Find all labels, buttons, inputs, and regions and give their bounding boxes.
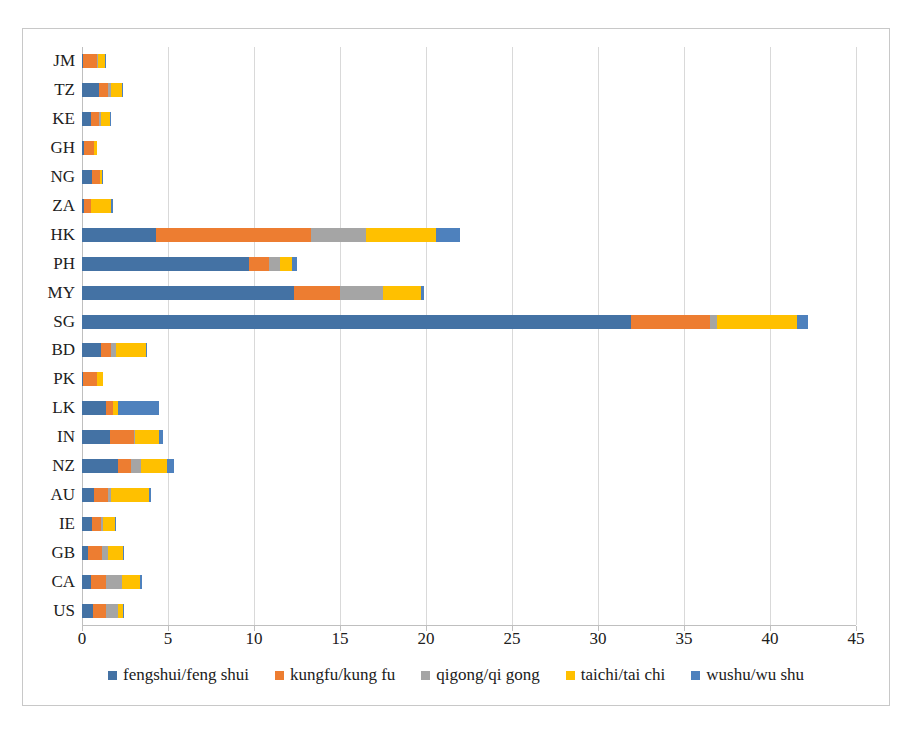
bar-segment[interactable]: [122, 83, 124, 97]
stacked-bar[interactable]: [82, 199, 113, 213]
bar-segment[interactable]: [292, 257, 297, 271]
bar-segment[interactable]: [93, 604, 106, 618]
stacked-bar[interactable]: [82, 372, 103, 386]
bar-row[interactable]: [82, 365, 856, 393]
stacked-bar[interactable]: [82, 459, 174, 473]
stacked-bar[interactable]: [82, 141, 97, 155]
bar-segment[interactable]: [110, 430, 134, 444]
bar-segment[interactable]: [149, 488, 151, 502]
bar-segment[interactable]: [82, 459, 118, 473]
bar-segment[interactable]: [141, 459, 167, 473]
bar-segment[interactable]: [97, 372, 104, 386]
bar-row[interactable]: [82, 250, 856, 278]
legend-item[interactable]: fengshui/feng shui: [108, 665, 249, 685]
bar-row[interactable]: [82, 279, 856, 307]
bar-segment[interactable]: [82, 83, 99, 97]
stacked-bar[interactable]: [82, 286, 424, 300]
stacked-bar[interactable]: [82, 604, 124, 618]
stacked-bar[interactable]: [82, 315, 808, 329]
bar-segment[interactable]: [111, 199, 113, 213]
bar-segment[interactable]: [311, 228, 366, 242]
bar-segment[interactable]: [94, 488, 108, 502]
stacked-bar[interactable]: [82, 401, 159, 415]
bar-segment[interactable]: [82, 315, 631, 329]
bar-segment[interactable]: [717, 315, 798, 329]
bar-row[interactable]: [82, 568, 856, 596]
bar-segment[interactable]: [294, 286, 340, 300]
bar-segment[interactable]: [88, 546, 102, 560]
bar-segment[interactable]: [159, 430, 162, 444]
bar-segment[interactable]: [105, 54, 106, 68]
bar-segment[interactable]: [118, 401, 159, 415]
bar-segment[interactable]: [84, 199, 91, 213]
legend-item[interactable]: wushu/wu shu: [691, 665, 804, 685]
bar-segment[interactable]: [83, 372, 97, 386]
bar-segment[interactable]: [106, 604, 118, 618]
bar-segment[interactable]: [340, 286, 383, 300]
bar-row[interactable]: [82, 47, 856, 75]
bar-segment[interactable]: [131, 459, 141, 473]
stacked-bar[interactable]: [82, 517, 116, 531]
bar-row[interactable]: [82, 76, 856, 104]
bar-segment[interactable]: [82, 112, 91, 126]
bar-row[interactable]: [82, 510, 856, 538]
legend-item[interactable]: taichi/tai chi: [566, 665, 666, 685]
bar-segment[interactable]: [710, 315, 717, 329]
bar-segment[interactable]: [140, 575, 142, 589]
bar-row[interactable]: [82, 336, 856, 364]
legend-item[interactable]: qigong/qi gong: [421, 665, 539, 685]
bar-row[interactable]: [82, 134, 856, 162]
stacked-bar[interactable]: [82, 546, 124, 560]
bar-row[interactable]: [82, 597, 856, 625]
bar-segment[interactable]: [797, 315, 807, 329]
bar-segment[interactable]: [436, 228, 460, 242]
bar-segment[interactable]: [82, 401, 106, 415]
bar-segment[interactable]: [103, 517, 115, 531]
bar-segment[interactable]: [167, 459, 174, 473]
bar-segment[interactable]: [82, 228, 156, 242]
stacked-bar[interactable]: [82, 575, 142, 589]
bar-row[interactable]: [82, 105, 856, 133]
bar-segment[interactable]: [111, 488, 149, 502]
bar-row[interactable]: [82, 308, 856, 336]
bar-segment[interactable]: [249, 257, 270, 271]
bar-segment[interactable]: [135, 430, 159, 444]
bar-segment[interactable]: [631, 315, 710, 329]
bar-segment[interactable]: [82, 430, 110, 444]
bar-row[interactable]: [82, 452, 856, 480]
bar-segment[interactable]: [82, 604, 93, 618]
bar-segment[interactable]: [115, 517, 117, 531]
bar-segment[interactable]: [82, 343, 101, 357]
bar-segment[interactable]: [92, 517, 101, 531]
bar-segment[interactable]: [146, 343, 148, 357]
stacked-bar[interactable]: [82, 488, 151, 502]
bar-segment[interactable]: [91, 112, 100, 126]
bar-segment[interactable]: [383, 286, 421, 300]
bar-segment[interactable]: [82, 170, 92, 184]
bar-segment[interactable]: [82, 488, 94, 502]
bar-segment[interactable]: [92, 170, 100, 184]
bar-row[interactable]: [82, 539, 856, 567]
bar-row[interactable]: [82, 481, 856, 509]
stacked-bar[interactable]: [82, 112, 111, 126]
bar-segment[interactable]: [106, 575, 121, 589]
bar-segment[interactable]: [99, 83, 108, 97]
bar-segment[interactable]: [110, 112, 112, 126]
bar-segment[interactable]: [98, 54, 105, 68]
bar-segment[interactable]: [82, 257, 249, 271]
bar-segment[interactable]: [101, 112, 110, 126]
bar-segment[interactable]: [82, 575, 91, 589]
bar-segment[interactable]: [116, 343, 145, 357]
bar-segment[interactable]: [421, 286, 424, 300]
bar-segment[interactable]: [366, 228, 437, 242]
bar-segment[interactable]: [91, 199, 112, 213]
bar-row[interactable]: [82, 192, 856, 220]
bar-segment[interactable]: [123, 604, 124, 618]
bar-segment[interactable]: [108, 546, 123, 560]
bar-row[interactable]: [82, 394, 856, 422]
stacked-bar[interactable]: [82, 54, 106, 68]
bar-segment[interactable]: [156, 228, 311, 242]
bar-segment[interactable]: [280, 257, 292, 271]
bar-segment[interactable]: [82, 286, 294, 300]
bar-segment[interactable]: [83, 54, 97, 68]
